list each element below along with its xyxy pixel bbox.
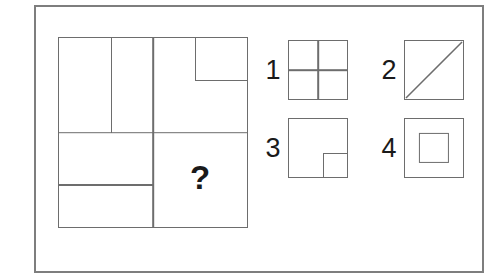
option-2-number: 2 bbox=[378, 57, 400, 84]
option-4-figure[interactable] bbox=[404, 118, 464, 178]
option-1[interactable]: 1 bbox=[262, 40, 352, 100]
question-mark-label: ? bbox=[153, 133, 247, 228]
top-left-vertical-line bbox=[111, 38, 113, 133]
matrix-cell-top-left bbox=[59, 38, 153, 133]
option-3[interactable]: 3 bbox=[262, 118, 352, 178]
option-2[interactable]: 2 bbox=[378, 40, 468, 100]
puzzle-matrix: ? bbox=[58, 37, 248, 228]
top-right-corner-square bbox=[195, 38, 247, 81]
option-2-figure[interactable] bbox=[404, 40, 464, 100]
option-1-figure[interactable] bbox=[288, 40, 348, 100]
option-1-number: 1 bbox=[262, 57, 284, 84]
option-4[interactable]: 4 bbox=[378, 118, 468, 178]
matrix-cell-bottom-left bbox=[59, 133, 153, 228]
option-4-inner-square bbox=[419, 133, 449, 163]
option-row-1: 1 2 bbox=[262, 40, 468, 100]
option-3-figure[interactable] bbox=[288, 118, 348, 178]
option-1-horizontal-line bbox=[289, 69, 347, 71]
option-2-diagonal-line bbox=[405, 41, 463, 99]
option-row-2: 3 4 bbox=[262, 118, 468, 178]
option-4-number: 4 bbox=[378, 135, 400, 162]
matrix-cell-bottom-right: ? bbox=[153, 133, 247, 228]
matrix-cell-top-right bbox=[153, 38, 247, 133]
bottom-left-horizontal-line bbox=[59, 184, 153, 186]
option-3-number: 3 bbox=[262, 135, 284, 162]
option-3-corner-notch bbox=[323, 153, 347, 177]
